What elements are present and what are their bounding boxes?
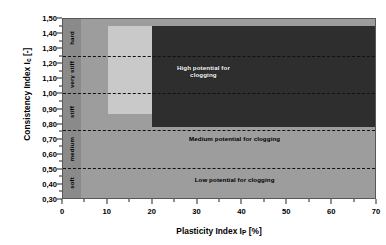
zone-low-potential-label: Low potential for clogging <box>195 176 275 184</box>
x-tick-minor <box>174 199 175 202</box>
x-tick-label: 50 <box>282 207 290 216</box>
x-tick-minor <box>219 199 220 202</box>
y-tick-label: 0,80 <box>42 119 57 128</box>
x-tick-mark <box>62 199 63 204</box>
y-axis-title: Consistency Index Ic [-] <box>22 9 32 179</box>
x-tick-mark <box>151 199 152 204</box>
y-axis-title-main: Consistency Index I <box>22 62 32 141</box>
class-very-stiff: very stiff <box>63 56 81 93</box>
y-tick-label: 0,60 <box>42 149 57 158</box>
y-tick-minor <box>59 100 62 101</box>
y-tick-mark <box>57 78 62 79</box>
y-tick-minor <box>59 55 62 56</box>
y-tick-label: 1,20 <box>42 59 57 68</box>
x-tick-minor <box>84 199 85 202</box>
y-tick-label: 0,90 <box>42 104 57 113</box>
y-tick-mark <box>57 123 62 124</box>
y-tick-mark <box>57 183 62 184</box>
y-tick-minor <box>59 40 62 41</box>
x-tick-label: 10 <box>103 207 111 216</box>
class-hard: hard <box>63 19 81 56</box>
class-stiff-label: stiff <box>69 106 75 118</box>
x-tick-mark <box>286 199 287 204</box>
x-tick-mark <box>196 199 197 204</box>
y-tick-mark <box>57 153 62 154</box>
refline-ic-125 <box>63 56 375 57</box>
plot-inner: hard very stiff stiff medium soft High p… <box>63 19 375 198</box>
y-tick-minor <box>59 131 62 132</box>
zone-high-label-line1: High potential for <box>155 64 251 72</box>
plot-area: hard very stiff stiff medium soft High p… <box>62 18 376 199</box>
y-tick-mark <box>57 93 62 94</box>
y-tick-mark <box>57 18 62 19</box>
x-tick-mark <box>331 199 332 204</box>
y-tick-mark <box>57 138 62 139</box>
zone-medium-potential-label: Medium potential for clogging <box>189 135 280 143</box>
y-axis-title-subscript: c <box>25 58 32 62</box>
x-tick-mark <box>106 199 107 204</box>
y-tick-label: 1,50 <box>42 14 57 23</box>
y-tick-minor <box>59 191 62 192</box>
y-tick-label: 0,70 <box>42 134 57 143</box>
y-tick-label: 0,50 <box>42 164 57 173</box>
y-tick-minor <box>59 116 62 117</box>
y-tick-mark <box>57 63 62 64</box>
y-tick-minor <box>59 25 62 26</box>
x-axis-title-unit: [%] <box>246 226 261 236</box>
y-tick-minor <box>59 85 62 86</box>
y-tick-mark <box>57 48 62 49</box>
clogging-potential-chart: hard very stiff stiff medium soft High p… <box>0 0 386 245</box>
y-tick-mark <box>57 33 62 34</box>
x-tick-minor <box>129 199 130 202</box>
y-tick-label: 1,00 <box>42 89 57 98</box>
y-tick-label: 0,40 <box>42 179 57 188</box>
x-axis-title: Plasticity Index IP [%] <box>62 226 376 236</box>
x-tick-label: 40 <box>237 207 245 216</box>
x-axis: 0 10 20 30 40 50 60 70 <box>62 199 376 221</box>
class-soft-label: soft <box>69 177 75 189</box>
class-hard-label: hard <box>69 31 75 45</box>
x-axis-title-main: Plasticity Index I <box>176 226 242 236</box>
class-medium: medium <box>63 130 81 167</box>
y-axis-title-unit: [-] <box>22 48 32 59</box>
y-tick-label: 1,30 <box>42 44 57 53</box>
y-tick-mark <box>57 168 62 169</box>
x-tick-minor <box>308 199 309 202</box>
class-medium-label: medium <box>69 137 75 161</box>
zone-high-label-line2: clogging <box>155 71 251 79</box>
class-stiff: stiff <box>63 93 81 130</box>
refline-ic-050 <box>63 168 375 169</box>
x-tick-label: 30 <box>192 207 200 216</box>
zone-high-potential-label: High potential for clogging <box>155 64 251 79</box>
x-tick-label: 20 <box>147 207 155 216</box>
y-tick-label: 1,40 <box>42 29 57 38</box>
x-tick-label: 70 <box>372 207 380 216</box>
refline-ic-100 <box>63 93 375 94</box>
refline-ic-075 <box>63 130 375 131</box>
x-tick-mark <box>241 199 242 204</box>
y-tick-minor <box>59 161 62 162</box>
x-tick-label: 60 <box>327 207 335 216</box>
x-tick-label: 0 <box>60 207 64 216</box>
y-tick-minor <box>59 176 62 177</box>
y-tick-mark <box>57 108 62 109</box>
y-tick-label: 1,10 <box>42 74 57 83</box>
x-tick-mark <box>376 199 377 204</box>
y-tick-minor <box>59 70 62 71</box>
class-soft: soft <box>63 168 81 198</box>
y-tick-minor <box>59 146 62 147</box>
x-tick-minor <box>353 199 354 202</box>
y-tick-label: 0,30 <box>42 195 57 204</box>
x-tick-minor <box>263 199 264 202</box>
class-very-stiff-label: very stiff <box>69 61 75 88</box>
